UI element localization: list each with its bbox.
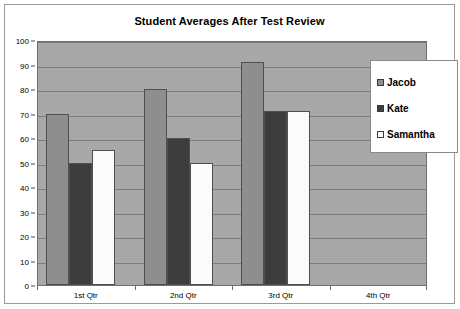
legend-label: Samantha	[387, 129, 435, 140]
bar-kate-3rd-qtr	[264, 111, 287, 285]
y-axis: 1009080706050403020100	[5, 41, 35, 286]
legend-swatch-icon	[377, 79, 384, 86]
bars-layer	[38, 42, 426, 285]
y-axis-tick-label: 100	[16, 37, 29, 46]
y-axis-tick-label: 70	[20, 110, 29, 119]
x-axis-tick-label: 4th Qtr	[366, 291, 390, 300]
x-axis-tick-mark	[135, 286, 136, 290]
legend-swatch-icon	[377, 105, 384, 112]
y-axis-tick-label: 50	[20, 159, 29, 168]
x-axis-tick-label: 3rd Qtr	[268, 291, 293, 300]
x-axis-tick-mark	[232, 286, 233, 290]
y-axis-tick-mark	[31, 41, 35, 42]
y-axis-tick-label: 0	[25, 282, 29, 291]
y-axis-tick-mark	[31, 65, 35, 66]
y-axis-tick-label: 80	[20, 86, 29, 95]
chart-container: Student Averages After Test Review 10090…	[4, 4, 455, 304]
y-axis-tick-mark	[31, 188, 35, 189]
x-axis-tick-label: 1st Qtr	[74, 291, 98, 300]
x-axis-tick-label: 2nd Qtr	[170, 291, 197, 300]
bar-kate-1st-qtr	[69, 163, 92, 286]
x-axis-tick-mark	[37, 286, 38, 290]
y-axis-tick-mark	[31, 286, 35, 287]
y-axis-tick-mark	[31, 114, 35, 115]
x-axis-tick-mark	[330, 286, 331, 290]
y-axis-tick-mark	[31, 212, 35, 213]
legend-label: Kate	[387, 103, 409, 114]
y-axis-tick-mark	[31, 163, 35, 164]
y-axis-tick-mark	[31, 90, 35, 91]
chart-legend: JacobKateSamantha	[370, 60, 458, 153]
legend-item-jacob[interactable]: Jacob	[377, 69, 457, 95]
bar-jacob-2nd-qtr	[144, 89, 167, 285]
legend-item-kate[interactable]: Kate	[377, 95, 457, 121]
y-axis-tick-label: 10	[20, 257, 29, 266]
bar-samantha-2nd-qtr	[190, 163, 213, 286]
x-axis-tick-mark	[426, 286, 427, 290]
plot-area	[37, 41, 427, 286]
legend-item-samantha[interactable]: Samantha	[377, 121, 457, 147]
y-axis-tick-label: 30	[20, 208, 29, 217]
chart-title: Student Averages After Test Review	[5, 15, 454, 27]
bar-jacob-3rd-qtr	[241, 62, 264, 285]
y-axis-tick-label: 60	[20, 135, 29, 144]
legend-swatch-icon	[377, 131, 384, 138]
y-axis-tick-mark	[31, 139, 35, 140]
y-axis-tick-label: 40	[20, 184, 29, 193]
y-axis-tick-label: 20	[20, 233, 29, 242]
y-axis-tick-mark	[31, 261, 35, 262]
y-axis-tick-mark	[31, 237, 35, 238]
legend-label: Jacob	[387, 77, 416, 88]
bar-samantha-3rd-qtr	[287, 111, 310, 285]
bar-samantha-1st-qtr	[92, 150, 115, 285]
bar-jacob-1st-qtr	[46, 114, 69, 286]
bar-kate-2nd-qtr	[167, 138, 190, 285]
y-axis-tick-label: 90	[20, 61, 29, 70]
x-axis: 1st Qtr2nd Qtr3rd Qtr4th Qtr	[37, 286, 427, 306]
